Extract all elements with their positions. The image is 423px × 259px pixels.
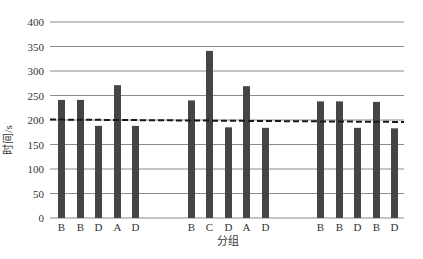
- y-axis-ticks: 050100150200250300350400: [28, 16, 45, 224]
- bar: [206, 51, 213, 218]
- bar: [114, 85, 121, 218]
- y-tick-label: 300: [28, 65, 45, 77]
- category-label: B: [188, 221, 195, 233]
- category-label: B: [336, 221, 343, 233]
- y-axis-title: 时间/s: [2, 125, 14, 154]
- bar: [336, 101, 343, 218]
- category-label: A: [114, 221, 122, 233]
- category-label: D: [262, 221, 270, 233]
- category-label: B: [317, 221, 324, 233]
- bar: [262, 128, 269, 218]
- bar: [132, 126, 139, 218]
- category-label: D: [132, 221, 140, 233]
- bar: [95, 126, 102, 218]
- y-tick-label: 350: [28, 41, 45, 53]
- bar: [373, 102, 380, 218]
- x-axis-category-labels: BBDADBCDADBBDBD: [58, 221, 399, 233]
- category-label: B: [373, 221, 380, 233]
- y-tick-label: 150: [28, 139, 45, 151]
- category-label: C: [206, 221, 213, 233]
- bar: [188, 100, 195, 218]
- bar: [391, 128, 398, 218]
- category-label: D: [354, 221, 362, 233]
- bar: [317, 101, 324, 218]
- y-tick-label: 50: [33, 188, 45, 200]
- bar: [225, 127, 232, 218]
- bars: [58, 51, 398, 218]
- category-label: D: [391, 221, 399, 233]
- bar: [354, 128, 361, 218]
- y-tick-label: 100: [28, 163, 45, 175]
- y-tick-label: 400: [28, 16, 45, 28]
- bar: [77, 100, 84, 218]
- category-label: B: [77, 221, 84, 233]
- y-tick-label: 250: [28, 90, 45, 102]
- bar-chart: 050100150200250300350400 BBDADBCDADBBDBD…: [0, 0, 423, 259]
- y-tick-label: 200: [28, 114, 45, 126]
- category-label: D: [225, 221, 233, 233]
- bar: [58, 100, 65, 218]
- bar: [243, 86, 250, 218]
- x-axis-title: 分组: [217, 234, 239, 247]
- category-label: B: [58, 221, 65, 233]
- y-tick-label: 0: [39, 212, 45, 224]
- category-label: A: [243, 221, 251, 233]
- category-label: D: [95, 221, 103, 233]
